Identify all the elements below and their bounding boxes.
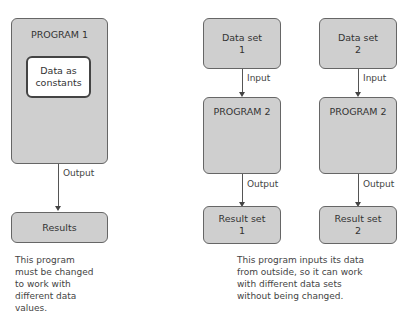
output-label-left: Output: [63, 168, 94, 178]
data-as-constants-box: Data as constants: [26, 56, 91, 98]
right-note: This program inputs its data from outsid…: [237, 254, 377, 302]
output-arrow-line-1: [242, 174, 243, 204]
output-arrow-line-2: [358, 174, 359, 204]
result-set-1-label: Result set: [219, 213, 266, 225]
results-box: Results: [11, 212, 108, 243]
output-label-2: Output: [363, 179, 394, 189]
data-set-1-box: Data set 1: [203, 18, 281, 69]
input-label-1: Input: [247, 73, 270, 83]
program-2-box-1: PROGRAM 2: [203, 97, 281, 174]
program-1-title: PROGRAM 1: [12, 29, 107, 41]
results-label: Results: [42, 222, 76, 234]
program-2-title-2: PROGRAM 2: [320, 106, 396, 118]
input-arrow-line-2: [358, 69, 359, 94]
result-set-2-box: Result set 2: [319, 206, 397, 244]
input-label-2: Input: [363, 73, 386, 83]
data-set-2-number: 2: [355, 44, 361, 56]
result-set-1-number: 1: [239, 225, 245, 237]
data-set-2-box: Data set 2: [319, 18, 397, 69]
output-arrow-line-left: [58, 164, 59, 208]
result-set-2-number: 2: [355, 225, 361, 237]
program-2-box-2: PROGRAM 2: [319, 97, 397, 174]
data-set-1-label: Data set: [222, 32, 262, 44]
left-note: This program must be changed to work wit…: [15, 254, 100, 314]
input-arrow-line-1: [242, 69, 243, 94]
output-arrowhead-left: [55, 206, 61, 211]
program-2-title-1: PROGRAM 2: [204, 106, 280, 118]
result-set-2-label: Result set: [335, 213, 382, 225]
result-set-1-box: Result set 1: [203, 206, 281, 244]
data-set-1-number: 1: [239, 44, 245, 56]
output-label-1: Output: [247, 179, 278, 189]
data-set-2-label: Data set: [338, 32, 378, 44]
data-as-constants-label: Data as constants: [28, 65, 89, 89]
